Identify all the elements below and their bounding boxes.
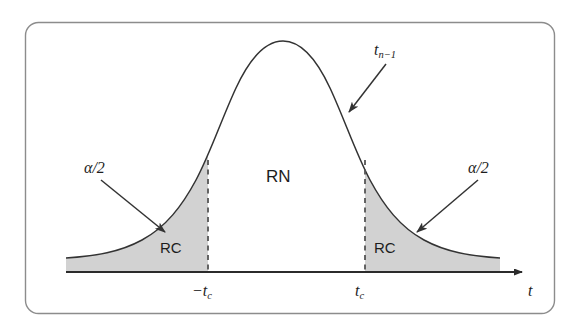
x-axis-label: t bbox=[528, 283, 532, 299]
alpha-left-arrow bbox=[101, 180, 165, 232]
figure-container: α/2 α/2 tn−1 RN RC RC −tc tc t bbox=[0, 0, 581, 329]
tn1-arrow bbox=[349, 64, 386, 112]
t-distribution-label: tn−1 bbox=[374, 42, 396, 58]
alpha-right-arrow bbox=[417, 180, 478, 232]
tick-label-negative-tc: −tc bbox=[192, 283, 212, 299]
tick-label-positive-tc: tc bbox=[355, 283, 364, 299]
density-curve bbox=[66, 41, 500, 258]
tick-label-negative-tc-base: −t bbox=[192, 282, 207, 299]
tick-label-positive-tc-subscript: c bbox=[359, 290, 364, 301]
rejection-region-label-left: RC bbox=[160, 240, 182, 255]
rejection-region-right-shading bbox=[66, 41, 500, 272]
acceptance-region-label: RN bbox=[266, 168, 291, 185]
tick-label-negative-tc-subscript: c bbox=[207, 290, 212, 301]
rejection-region-left-shading bbox=[66, 41, 500, 272]
alpha-over-two-label-left: α/2 bbox=[84, 160, 105, 176]
alpha-over-two-label-right: α/2 bbox=[468, 160, 489, 176]
t-distribution-label-subscript: n−1 bbox=[378, 49, 396, 60]
rejection-region-label-right: RC bbox=[374, 240, 396, 255]
